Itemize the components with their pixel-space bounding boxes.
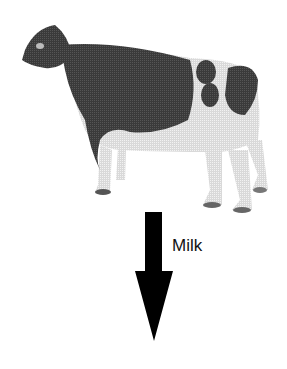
arrow-label: Milk — [172, 236, 202, 256]
down-arrow-icon — [0, 0, 287, 369]
figure-canvas: Milk — [0, 0, 287, 369]
